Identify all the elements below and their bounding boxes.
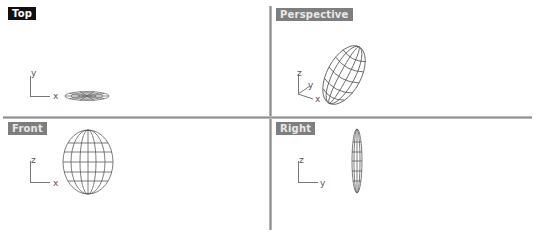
perspective-view-canvas[interactable]: z y x [272, 0, 539, 116]
viewport-perspective[interactable]: Perspective z y x [272, 0, 539, 116]
axis-label-y: y [308, 80, 314, 90]
top-view-canvas[interactable]: y x [0, 0, 269, 116]
right-view-canvas[interactable]: z y [272, 119, 539, 235]
viewport-top[interactable]: Top y x [0, 0, 269, 116]
axis-label-z: z [299, 155, 304, 165]
axis-label-x: x [53, 91, 59, 101]
front-view-canvas[interactable]: z x [0, 119, 269, 235]
axis-label-y: y [31, 68, 37, 78]
viewport-splitter-horizontal[interactable] [3, 116, 532, 119]
ellipsoid-wireframe-icon [65, 92, 109, 101]
axis-gizmo-icon [30, 76, 50, 97]
axis-label-z: z [31, 155, 36, 165]
axis-label-x: x [315, 94, 321, 104]
axis-label-z: z [297, 68, 302, 78]
ellipsoid-wireframe-icon [314, 39, 374, 111]
ellipsoid-wireframe-icon [352, 129, 362, 193]
axis-label-x: x [53, 178, 59, 188]
ellipsoid-wireframe-icon [63, 130, 113, 194]
viewport-right[interactable]: Right z y [272, 119, 539, 235]
viewport-front[interactable]: Front z x [0, 119, 269, 235]
axis-label-y: y [320, 178, 326, 188]
